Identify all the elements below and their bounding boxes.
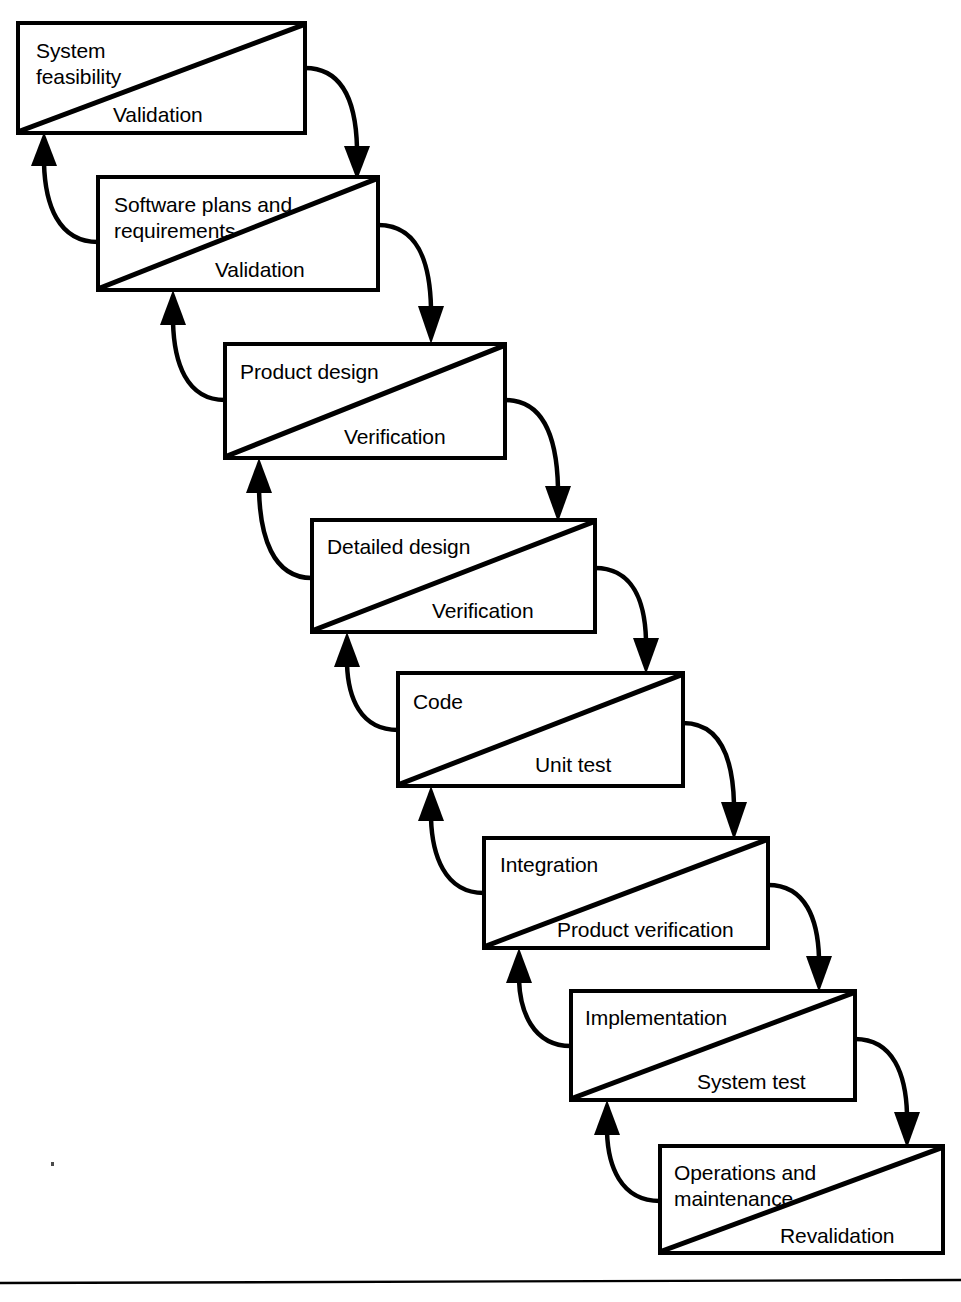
stage-box-system-feasibility[interactable]: System feasibility Validation <box>18 23 305 133</box>
stage-box-detailed-design[interactable]: Detailed design Verification <box>312 520 595 632</box>
stage-primary-label-line2: feasibility <box>36 65 122 88</box>
stage-box-integration[interactable]: Integration Product verification <box>484 838 768 948</box>
stage-secondary-label: Validation <box>113 103 203 126</box>
forward-arrow-2-curve <box>378 225 431 308</box>
stage-primary-label: System <box>36 39 105 62</box>
waterfall-diagram: System feasibility Validation Software p… <box>0 0 961 1302</box>
stage-secondary-label: Product verification <box>557 918 734 941</box>
forward-arrow-7 <box>855 1039 920 1148</box>
feedback-arrow-4 <box>334 632 398 730</box>
forward-arrow-2 <box>378 225 444 344</box>
feedback-arrow-5-curve <box>431 818 484 893</box>
forward-arrow-7-head <box>894 1112 920 1148</box>
forward-arrow-1-head <box>344 146 370 180</box>
stage-primary-label: Implementation <box>585 1006 727 1029</box>
stage-box-code[interactable]: Code Unit test <box>398 673 683 786</box>
scan-artifact-speck <box>51 1162 54 1166</box>
feedback-arrow-2 <box>160 290 225 400</box>
feedback-arrow-1 <box>31 132 98 242</box>
forward-arrow-5-curve <box>683 723 734 804</box>
feedback-arrow-6-curve <box>519 980 571 1046</box>
stage-secondary-label: System test <box>697 1070 806 1093</box>
stage-primary-label: Integration <box>500 853 598 876</box>
stage-box-implementation[interactable]: Implementation System test <box>571 991 855 1100</box>
forward-arrow-3-head <box>545 486 571 522</box>
forward-arrow-1-curve <box>305 68 357 148</box>
feedback-arrow-3-curve <box>259 490 312 578</box>
feedback-arrow-1-curve <box>44 163 98 242</box>
feedback-arrow-6 <box>506 948 571 1046</box>
waterfall-diagram-page: System feasibility Validation Software p… <box>0 0 961 1302</box>
stage-box-operations-and-maintenance[interactable]: Operations and maintenance Revalidation <box>660 1146 943 1253</box>
forward-arrow-6-curve <box>768 885 819 958</box>
stage-box-software-plans-and-requirements[interactable]: Software plans and requirements Validati… <box>98 177 378 290</box>
forward-arrow-7-curve <box>855 1039 907 1114</box>
stage-primary-label: Software plans and <box>114 193 292 216</box>
forward-arrow-6-head <box>806 956 832 992</box>
forward-arrow-4-head <box>633 638 659 674</box>
feedback-arrow-5 <box>418 786 484 893</box>
stage-secondary-label: Validation <box>215 258 305 281</box>
baseline-rule <box>0 1280 961 1283</box>
feedback-arrow-7 <box>594 1100 660 1201</box>
feedback-arrow-3 <box>246 458 312 578</box>
stage-primary-label: Detailed design <box>327 535 470 558</box>
feedback-flow-arrows <box>31 132 660 1201</box>
stage-primary-label-line2: maintenance <box>674 1187 793 1210</box>
feedback-arrow-4-curve <box>347 664 398 730</box>
forward-arrow-2-head <box>418 306 444 344</box>
forward-arrow-4-curve <box>595 568 646 640</box>
stage-secondary-label: Revalidation <box>780 1224 894 1247</box>
forward-arrow-5-head <box>721 802 747 840</box>
stage-secondary-label: Unit test <box>535 753 611 776</box>
stage-box-product-design[interactable]: Product design Verification <box>225 344 505 458</box>
feedback-arrow-1-head <box>31 132 57 166</box>
forward-arrow-3 <box>505 400 571 522</box>
feedback-arrow-6-head <box>506 948 532 983</box>
feedback-arrow-3-head <box>246 458 272 493</box>
feedback-arrow-2-head <box>160 290 186 325</box>
forward-arrow-4 <box>595 568 659 674</box>
forward-arrow-1 <box>305 68 370 180</box>
stage-secondary-label: Verification <box>432 599 534 622</box>
stage-primary-label-line2: requirements <box>114 219 235 242</box>
feedback-arrow-4-head <box>334 632 360 667</box>
forward-arrow-3-curve <box>505 400 558 488</box>
stage-secondary-label: Verification <box>344 425 446 448</box>
forward-arrow-6 <box>768 885 832 992</box>
feedback-arrow-7-head <box>594 1100 620 1135</box>
stage-primary-label: Code <box>413 690 463 713</box>
feedback-arrow-2-curve <box>173 322 225 400</box>
feedback-arrow-5-head <box>418 786 444 821</box>
feedback-arrow-7-curve <box>607 1132 660 1201</box>
forward-arrow-5 <box>683 723 747 840</box>
stage-primary-label: Product design <box>240 360 379 383</box>
stage-primary-label: Operations and <box>674 1161 816 1184</box>
